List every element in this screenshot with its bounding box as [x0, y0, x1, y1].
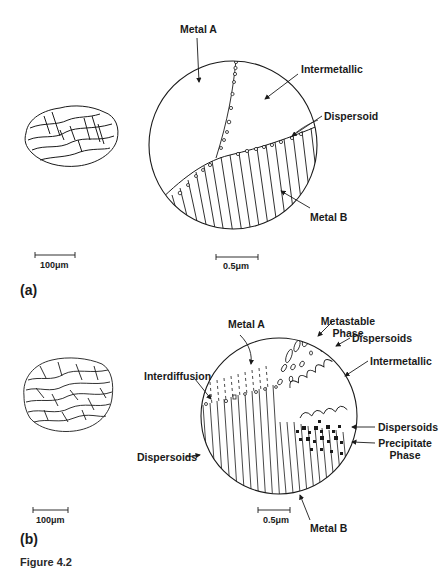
scale-bar-particle-a — [35, 252, 75, 258]
label-precipitate-phase-line1: Precipitate — [372, 437, 438, 449]
label-dispersoids-left: Dispersoids — [137, 451, 197, 463]
scale-bar-detail-b — [258, 507, 290, 513]
scale-label-particle-b: 100μm — [36, 515, 65, 525]
panel-b: Metal A Metastable Phase Dispersoids Int… — [0, 290, 446, 545]
label-dispersoids-top: Dispersoids — [352, 332, 412, 344]
scale-bar-particle-b — [33, 507, 68, 513]
label-interdiffusion: Interdiffusion — [144, 370, 211, 382]
label-metal-b-b: Metal B — [310, 522, 347, 534]
label-intermetallic: Intermetallic — [301, 63, 363, 75]
scale-label-detail-b: 0.5μm — [263, 515, 289, 525]
figure-caption-stub: Figure 4.2 — [20, 556, 72, 568]
label-metal-a: Metal A — [180, 23, 217, 35]
leader-intermetallic-b — [345, 361, 368, 376]
leader-metal-a — [197, 38, 199, 82]
panel-a-drawing — [0, 0, 446, 290]
leader-metal-b-b — [300, 495, 310, 520]
panel-tag-b: (b) — [20, 531, 38, 547]
panel-b-drawing — [0, 290, 446, 545]
label-intermetallic-b: Intermetallic — [370, 355, 432, 367]
label-dispersoid: Dispersoid — [324, 110, 378, 122]
label-precipitate-phase: Precipitate Phase — [372, 437, 438, 461]
panel-a: Metal A Intermetallic Dispersoid Metal B… — [0, 0, 446, 290]
detail-circle-b — [201, 324, 357, 505]
scale-label-particle: 100μm — [40, 260, 69, 270]
leader-dispersoids-top — [336, 338, 350, 346]
particle-sketch-b — [24, 358, 113, 432]
scale-label-detail: 0.5μm — [223, 261, 249, 271]
label-metastable-phase-line1: Metastable — [318, 315, 378, 327]
scale-bar-detail-a — [216, 254, 258, 260]
leader-metal-a-b — [240, 335, 251, 364]
particle-sketch-a — [25, 106, 118, 167]
label-precipitate-phase-line2: Phase — [372, 449, 438, 461]
label-dispersoids-right: Dispersoids — [378, 421, 438, 433]
label-metal-b: Metal B — [310, 211, 347, 223]
label-metal-a-b: Metal A — [228, 318, 265, 330]
detail-circle-a — [140, 60, 330, 240]
